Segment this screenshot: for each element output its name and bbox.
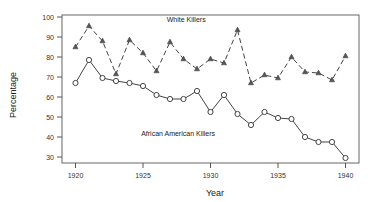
- data-point-marker: [235, 111, 240, 116]
- data-point-marker: [167, 96, 172, 101]
- line-chart-canvas: 30405060708090100 19201925193019351940 W…: [0, 0, 375, 202]
- data-point-marker: [194, 88, 199, 93]
- data-point-marker: [275, 115, 280, 120]
- y-axis-title: Percentage: [8, 72, 18, 118]
- data-point-marker: [140, 83, 145, 88]
- x-axis-title: Year: [206, 188, 224, 198]
- data-point-marker: [181, 96, 186, 101]
- chart-background: [0, 0, 375, 202]
- y-tick-label: 100: [42, 14, 54, 21]
- data-point-marker: [86, 57, 91, 62]
- y-tick-label: 50: [46, 114, 54, 121]
- y-tick-label: 70: [46, 74, 54, 81]
- data-point-marker: [154, 92, 159, 97]
- y-tick-label: 60: [46, 94, 54, 101]
- data-point-marker: [343, 155, 348, 160]
- data-point-marker: [221, 92, 226, 97]
- y-tick-label: 80: [46, 54, 54, 61]
- data-point-marker: [262, 109, 267, 114]
- x-tick-label: 1935: [270, 172, 286, 179]
- x-tick-label: 1925: [135, 172, 151, 179]
- data-point-marker: [73, 80, 78, 85]
- x-tick-label: 1930: [203, 172, 219, 179]
- y-tick-label: 40: [46, 134, 54, 141]
- x-tick-label: 1920: [68, 172, 84, 179]
- data-point-marker: [113, 78, 118, 83]
- chart-figure: 30405060708090100 19201925193019351940 W…: [0, 0, 375, 202]
- data-point-marker: [289, 116, 294, 121]
- x-tick-label: 1940: [338, 172, 354, 179]
- series-annotation-white-killers: White Killers: [167, 16, 206, 23]
- data-point-marker: [329, 139, 334, 144]
- data-point-marker: [248, 122, 253, 127]
- y-tick-label: 30: [46, 154, 54, 161]
- data-point-marker: [302, 134, 307, 139]
- data-point-marker: [127, 80, 132, 85]
- data-point-marker: [100, 75, 105, 80]
- series-annotation-african-american-killers: African American Killers: [141, 130, 215, 137]
- data-point-marker: [316, 139, 321, 144]
- data-point-marker: [208, 109, 213, 114]
- y-tick-label: 90: [46, 34, 54, 41]
